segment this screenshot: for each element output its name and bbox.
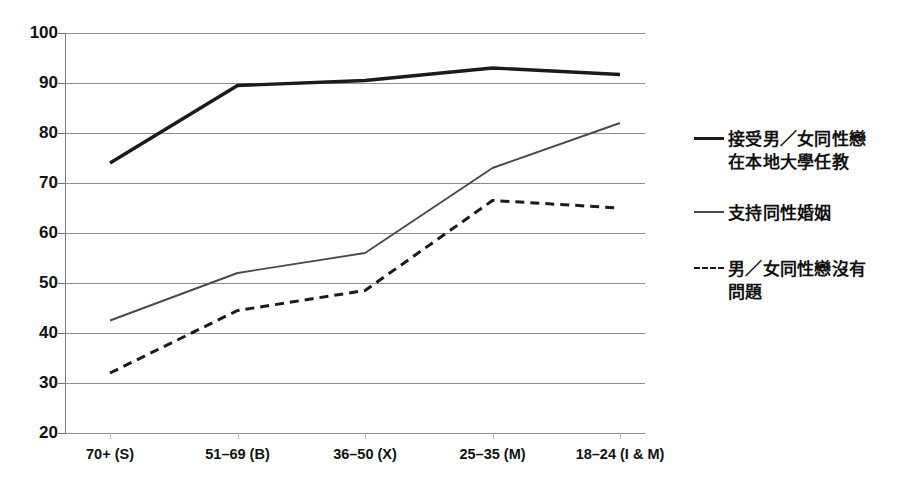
legend-line-swatch-dashed-icon [694,258,728,278]
x-axis-tick-mark [493,433,494,439]
x-axis-tick-mark [620,433,621,439]
x-axis-tick-label: 36–50 (X) [333,446,397,462]
series-layer [0,0,912,490]
legend-line-swatch-solid-thin-icon [694,202,728,222]
legend-line-swatch-solid-thick-icon [694,128,728,148]
x-axis-tick-label: 18–24 (I & M) [576,446,665,462]
series-line-2 [110,201,620,374]
legend-item-1[interactable]: 支持同性婚姻 [694,202,832,225]
legend-label-0: 接受男／女同性戀在本地大學任教 [728,128,866,175]
legend-label-1: 支持同性婚姻 [728,202,832,225]
x-axis-tick-mark [110,433,111,439]
legend-item-0[interactable]: 接受男／女同性戀在本地大學任教 [694,128,866,175]
legend-label-2: 男／女同性戀沒有問題 [728,258,866,305]
x-axis-tick-label: 70+ (S) [86,446,134,462]
page-scan-artifact [60,474,490,486]
x-axis-tick-mark [365,433,366,439]
x-axis-tick-label: 25–35 (M) [459,446,525,462]
series-line-0 [110,68,620,163]
legend-item-2[interactable]: 男／女同性戀沒有問題 [694,258,866,305]
x-axis-tick-label: 51–69 (B) [205,446,269,462]
line-chart: 1009080706050403020 70+ (S)51–69 (B)36–5… [0,0,912,490]
x-axis-tick-mark [238,433,239,439]
